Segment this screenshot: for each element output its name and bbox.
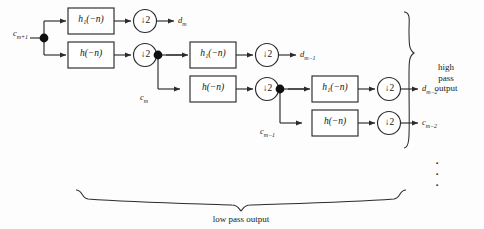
label-high-pass-output: high pass output — [418, 62, 474, 94]
label-ds-stage3-low: ↓2 — [378, 118, 401, 128]
label-box-h-stage1: h(−n) — [68, 49, 114, 59]
label-box-h-stage2: h(−n) — [190, 83, 236, 93]
label-ds-stage1-high: ↓2 — [134, 16, 157, 26]
label-ds-stage1-low: ↓2 — [134, 50, 157, 60]
label-output-cm2: cm−2 — [422, 118, 437, 130]
label-low-pass-output: low pass output — [181, 214, 301, 225]
label-output-dm: dm — [178, 16, 187, 28]
label-ds-stage3-high: ↓2 — [378, 84, 401, 94]
label-box-h-stage3: h(−n) — [312, 117, 358, 127]
brace-low-pass — [76, 190, 406, 211]
diagram-canvas: cm+1 h₁(−n) h(−n) ↓2 ↓2 dm cm h₁(−n) h(−… — [0, 0, 484, 229]
high-pass-line-1: high — [418, 62, 474, 73]
label-continuation-ellipsis: . . . — [429, 154, 445, 186]
label-ds-stage2-low: ↓2 — [256, 84, 279, 94]
label-ds-stage2-high: ↓2 — [256, 50, 279, 60]
label-signal-cm1: cm−1 — [260, 127, 275, 139]
label-box-h1-stage2: h₁(−n) — [190, 49, 236, 59]
label-input-cm1: cm+1 — [13, 29, 28, 41]
diagram-vector-layer — [0, 0, 484, 229]
label-box-h1-stage1: h₁(−n) — [68, 15, 114, 25]
brace-high-pass — [404, 12, 414, 148]
label-box-h1-stage3: h₁(−n) — [312, 83, 358, 93]
high-pass-line-3: output — [418, 83, 474, 94]
label-output-dm1: dm−1 — [300, 50, 316, 62]
node-split-stage1 — [40, 34, 49, 43]
high-pass-line-2: pass — [418, 73, 474, 84]
ellipsis-dot-3: . — [429, 176, 445, 187]
label-signal-cm: cm — [140, 93, 148, 105]
